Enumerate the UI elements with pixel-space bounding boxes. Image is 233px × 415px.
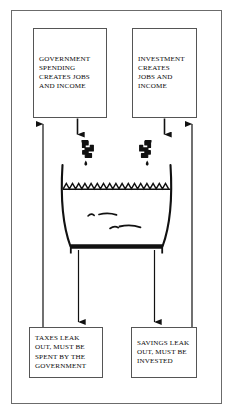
- box-investment-label: INVESTMENT CREATES JOBS AND INCOME: [133, 55, 188, 92]
- water-ripple-mark-1: [88, 214, 94, 216]
- box-government-spending-label: GOVERNMENT SPENDING CREATES JOBS AND INC…: [34, 55, 93, 92]
- water-ripple-mark-2: [99, 213, 117, 215]
- box-savings-leak-out[interactable]: SAVINGS LEAK OUT, MUST BE INVESTED: [131, 327, 197, 378]
- diagram-canvas: GOVERNMENT SPENDING CREATES JOBS AND INC…: [0, 0, 233, 415]
- box-savings-leak-out-label: SAVINGS LEAK OUT, MUST BE INVESTED: [132, 339, 192, 367]
- box-investment[interactable]: INVESTMENT CREATES JOBS AND INCOME: [132, 28, 197, 118]
- water-ripple-mark-4: [120, 225, 141, 227]
- right-water-drop: [146, 161, 149, 166]
- water-surface-zigzag: [63, 183, 168, 188]
- tub-left-wall: [62, 165, 71, 247]
- left-water-drop: [84, 161, 87, 166]
- box-government-spending[interactable]: GOVERNMENT SPENDING CREATES JOBS AND INC…: [33, 28, 107, 118]
- tub-right-wall: [163, 165, 172, 247]
- box-taxes-leak-out[interactable]: TAXES LEAK OUT, MUST BE SPENT BY THE GOV…: [29, 327, 103, 378]
- box-taxes-leak-out-label: TAXES LEAK OUT, MUST BE SPENT BY THE GOV…: [30, 334, 89, 371]
- right-faucet-icon: [140, 141, 152, 157]
- water-ripple-mark-3: [110, 227, 118, 229]
- left-faucet-icon: [82, 141, 94, 157]
